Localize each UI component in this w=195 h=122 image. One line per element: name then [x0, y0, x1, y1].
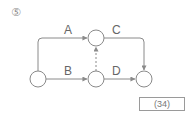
node-3	[88, 71, 104, 87]
node-2	[88, 30, 104, 46]
question-number: ⑤	[11, 6, 21, 20]
label-c: C	[112, 23, 121, 37]
answer-box[interactable]: (34)	[139, 97, 185, 111]
node-4	[136, 71, 152, 87]
node-1	[30, 71, 46, 87]
network-diagram: ⑤ A B C D (34)	[0, 0, 195, 122]
label-b: B	[64, 64, 72, 78]
label-d: D	[112, 64, 121, 78]
label-a: A	[64, 23, 72, 37]
edge-c	[104, 38, 144, 70]
answer-box-label: (34)	[154, 99, 170, 109]
edge-a	[38, 38, 87, 71]
